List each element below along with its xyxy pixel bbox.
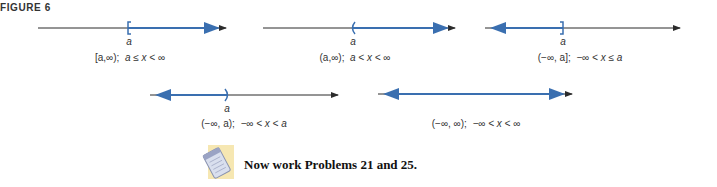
interval-notation: [a,∞); (95, 52, 119, 63)
interval-caption: (−∞, a]; −∞ < x ≤ a (538, 52, 623, 63)
interval-caption: [a,∞); a ≤ x < ∞ (95, 52, 165, 63)
practice-note: Now work Problems 21 and 25. (244, 157, 417, 173)
interval-notation: (a,∞); (320, 52, 345, 63)
interval-notation: (−∞, ∞); (432, 118, 467, 129)
number-line-closed-right (38, 22, 226, 34)
interval-caption: (−∞, ∞); −∞ < x < ∞ (432, 118, 521, 129)
point-label: a (350, 36, 356, 47)
interval-notation: (−∞, a); (201, 118, 235, 129)
interval-inequality: a < x < ∞ (350, 52, 390, 63)
number-line-left-open (150, 89, 338, 101)
interval-inequality: −∞ < x < a (240, 118, 286, 129)
interval-notation: (−∞, a]; (538, 52, 571, 63)
point-label: a (560, 36, 566, 47)
number-line-left-closed (485, 22, 680, 34)
interval-inequality: −∞ < x < ∞ (472, 118, 520, 129)
interval-caption: (−∞, a); −∞ < x < a (201, 118, 286, 129)
notepad-icon (202, 143, 236, 181)
point-label: a (224, 103, 230, 114)
number-line-open-right (263, 22, 455, 34)
point-label: a (126, 36, 132, 47)
interval-inequality: −∞ < x ≤ a (576, 52, 622, 63)
interval-caption: (a,∞); a < x < ∞ (320, 52, 391, 63)
interval-inequality: a ≤ x < ∞ (125, 52, 165, 63)
